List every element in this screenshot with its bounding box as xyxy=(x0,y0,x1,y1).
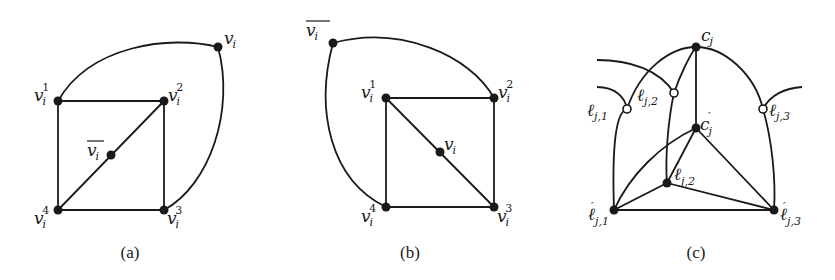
edge-v-v3 xyxy=(164,47,223,210)
label-lp3: ℓj,3′ xyxy=(780,200,801,228)
label-v1: vi1 xyxy=(34,81,49,108)
label-v3: vi3 xyxy=(497,202,512,229)
node-lp1 xyxy=(610,206,619,215)
panel-b: vi vi1 vi2 vi4 vi3 vi (b) xyxy=(306,20,513,262)
edge-l2-c xyxy=(674,47,696,93)
edge-c-l3 xyxy=(696,47,763,109)
label-v3: vi3 xyxy=(167,204,182,231)
node-l3-hollow xyxy=(759,105,767,113)
figure-canvas: vi1 vi2 vi4 vi3 vi vi (a) xyxy=(0,0,835,280)
edge-v1-v xyxy=(58,42,218,101)
node-v1 xyxy=(382,94,391,103)
panel-a: vi1 vi2 vi4 vi3 vi vi (a) xyxy=(34,28,236,262)
label-lp1: ℓj,1′ xyxy=(588,200,609,228)
node-v1 xyxy=(54,97,63,106)
label-l1: ℓj,1 xyxy=(587,100,608,123)
edge-l3-lp3 xyxy=(763,109,775,210)
label-v1: vi1 xyxy=(361,78,376,105)
caption-b: (b) xyxy=(400,243,420,262)
caption-c: (c) xyxy=(687,243,706,262)
panel-c: cj cj′ ℓj,1 ℓj,2 ℓj,3 ℓj,1′ ℓj,2′ ℓj,3′ … xyxy=(587,25,802,262)
label-v: vi xyxy=(224,28,236,51)
label-c: cj xyxy=(701,25,714,48)
label-v2: vi2 xyxy=(498,78,513,105)
label-v: vi xyxy=(444,134,456,157)
node-v4 xyxy=(54,206,63,215)
label-l2: ℓj,2 xyxy=(637,85,658,108)
edge-l2-lp2 xyxy=(666,93,674,183)
node-v4 xyxy=(382,203,391,212)
label-l3: ℓj,3 xyxy=(769,100,790,123)
node-lp2 xyxy=(663,179,672,188)
edge-cp-lp3 xyxy=(696,128,774,210)
label-lp2: ℓj,2′ xyxy=(674,160,695,188)
label-cp: cj′ xyxy=(700,110,713,138)
edge-cp-lp1 xyxy=(614,128,696,210)
node-vbar xyxy=(329,39,338,48)
label-v2: vi2 xyxy=(168,81,183,108)
label-vbar: vi xyxy=(306,20,318,43)
caption-a: (a) xyxy=(121,243,140,262)
label-v4: vi4 xyxy=(361,202,376,229)
edge-ext-l1 xyxy=(597,87,627,109)
node-c xyxy=(692,43,701,52)
node-l1-hollow xyxy=(623,105,631,113)
label-vbar: vi xyxy=(87,140,99,163)
edge-vbar-v2 xyxy=(333,38,494,98)
label-v4: vi4 xyxy=(34,204,49,231)
edge-lp1-c-lp3-arch xyxy=(613,109,627,210)
node-vbar xyxy=(107,151,116,160)
edge-vbar-v4 xyxy=(326,43,386,207)
node-l2-hollow xyxy=(670,89,678,97)
node-v xyxy=(214,43,223,52)
node-lp3 xyxy=(770,206,779,215)
